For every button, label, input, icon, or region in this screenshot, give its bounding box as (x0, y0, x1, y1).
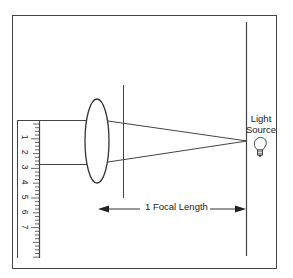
converging-ray-bottom (108, 141, 247, 162)
converging-ray-top (108, 121, 247, 141)
frame-border (13, 16, 277, 269)
ruler-number-3: 3 (20, 165, 30, 170)
arrow-right-icon (235, 206, 246, 213)
ruler-number-1: 1 (20, 135, 30, 140)
ruler-number-5: 5 (20, 195, 30, 200)
ruler-number-2: 2 (20, 150, 30, 155)
arrow-left-icon (98, 206, 109, 213)
light-source-label: Light Source (244, 113, 278, 135)
ruler-number-7: 7 (20, 225, 30, 230)
ruler (17, 120, 40, 258)
ruler-number-6: 6 (20, 210, 30, 215)
focal-length-label: 1 Focal Length (143, 201, 210, 212)
diagram-canvas (0, 0, 293, 278)
convex-lens (85, 99, 109, 183)
ruler-number-4: 4 (20, 180, 30, 185)
light-source-label-line1: Light (244, 113, 278, 124)
lightbulb-icon (254, 137, 266, 157)
light-source-label-line2: Source (244, 124, 278, 135)
